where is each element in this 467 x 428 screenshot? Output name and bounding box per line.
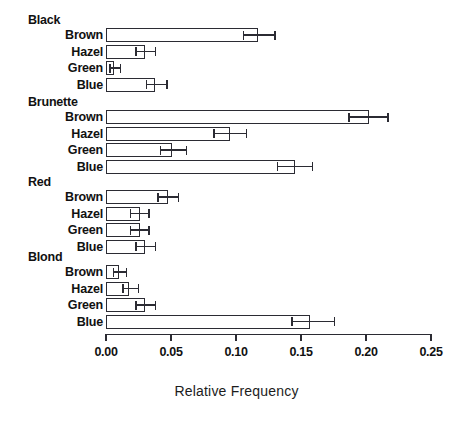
error-cap-low-brunette-brown [348,113,349,122]
group-header-blond: Blond [28,250,62,264]
error-cap-high-black-hazel [155,47,156,56]
x-axis-tick-4 [365,334,366,341]
error-cap-low-red-hazel [130,209,131,218]
error-bar-blond-green [136,304,156,305]
error-cap-low-black-hazel [135,47,136,56]
category-label-blond-brown: Brown [0,265,103,279]
bar-black-brown[interactable] [106,28,258,42]
error-cap-high-black-blue [166,80,167,89]
group-header-black: Black [28,13,60,27]
category-label-blond-green: Green [0,298,103,312]
bar-brunette-brown[interactable] [106,110,369,124]
error-cap-low-red-brown [157,193,158,202]
category-label-red-hazel: Hazel [0,207,103,221]
x-axis-tick-label-3: 0.15 [271,345,331,359]
error-bar-brunette-hazel [214,133,247,134]
bar-brunette-hazel[interactable] [106,127,230,141]
error-cap-low-black-brown [243,31,244,40]
group-header-red: Red [28,175,51,189]
category-label-brunette-green: Green [0,143,103,157]
plot-area: BlackBrownHazelGreenBlueBrunetteBrownHaz… [0,0,467,428]
category-label-black-hazel: Hazel [0,45,103,59]
error-cap-low-black-blue [146,80,147,89]
category-label-red-brown: Brown [0,190,103,204]
bar-blond-blue[interactable] [106,315,310,329]
x-axis-tick-label-0: 0.00 [76,345,136,359]
error-bar-red-brown [158,196,179,197]
error-cap-high-red-hazel [148,209,149,218]
error-bar-blond-hazel [123,288,139,289]
x-axis-tick-3 [300,334,301,341]
category-label-red-green: Green [0,223,103,237]
x-axis-tick-5 [430,334,431,341]
error-bar-brunette-blue [278,166,313,167]
error-cap-high-brunette-brown [387,113,388,122]
x-axis-tick-label-2: 0.10 [206,345,266,359]
error-cap-high-brunette-hazel [246,129,247,138]
x-axis-tick-label-1: 0.05 [141,345,201,359]
error-cap-high-blond-brown [126,268,127,277]
error-cap-low-brunette-hazel [213,129,214,138]
category-label-brunette-brown: Brown [0,110,103,124]
error-cap-low-blond-brown [113,268,114,277]
error-bar-black-brown [244,34,275,35]
error-cap-high-brunette-green [186,146,187,155]
error-cap-high-blond-green [155,301,156,310]
error-cap-low-red-green [130,226,131,235]
error-bar-blond-brown [114,271,127,272]
error-cap-low-brunette-green [160,146,161,155]
error-bar-black-blue [146,84,167,85]
category-label-black-brown: Brown [0,28,103,42]
category-label-blond-hazel: Hazel [0,282,103,296]
error-cap-high-blond-blue [334,317,335,326]
x-axis-tick-0 [105,334,106,341]
category-label-brunette-blue: Blue [0,160,103,174]
error-cap-high-blond-hazel [138,284,139,293]
error-cap-high-black-green [120,64,121,73]
category-label-black-blue: Blue [0,78,103,92]
error-cap-low-blond-green [135,301,136,310]
x-axis-tick-label-5: 0.25 [401,345,461,359]
x-axis-tick-label-4: 0.20 [336,345,396,359]
category-label-blond-blue: Blue [0,315,103,329]
error-cap-high-red-green [148,226,149,235]
error-cap-low-red-blue [135,242,136,251]
error-bar-red-green [131,229,149,230]
x-axis-line [106,334,431,335]
error-bar-red-blue [136,246,156,247]
error-cap-low-blond-hazel [122,284,123,293]
error-cap-low-black-green [109,64,110,73]
error-cap-low-blond-blue [291,317,292,326]
x-axis-tick-2 [235,334,236,341]
error-bar-red-hazel [131,213,149,214]
category-label-black-green: Green [0,61,103,75]
group-header-brunette: Brunette [28,95,78,109]
x-axis-title: Relative Frequency [3,383,467,399]
error-cap-low-brunette-blue [277,162,278,171]
error-bar-blond-blue [292,321,335,322]
x-axis-tick-1 [170,334,171,341]
error-cap-high-brunette-blue [312,162,313,171]
error-cap-high-red-blue [155,242,156,251]
error-bar-brunette-green [161,149,187,150]
category-label-brunette-hazel: Hazel [0,127,103,141]
bar-brunette-blue[interactable] [106,160,295,174]
error-cap-high-red-brown [178,193,179,202]
error-bar-black-hazel [136,51,156,52]
relative-frequency-bar-chart: BlackBrownHazelGreenBlueBrunetteBrownHaz… [0,0,467,428]
error-cap-high-black-brown [274,31,275,40]
error-bar-brunette-brown [349,116,388,117]
